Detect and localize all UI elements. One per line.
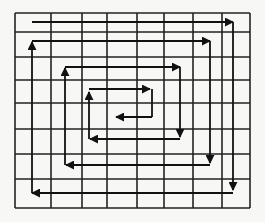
spiral-grid-diagram xyxy=(0,0,265,222)
spiral-path xyxy=(32,22,233,193)
grid xyxy=(15,13,250,208)
